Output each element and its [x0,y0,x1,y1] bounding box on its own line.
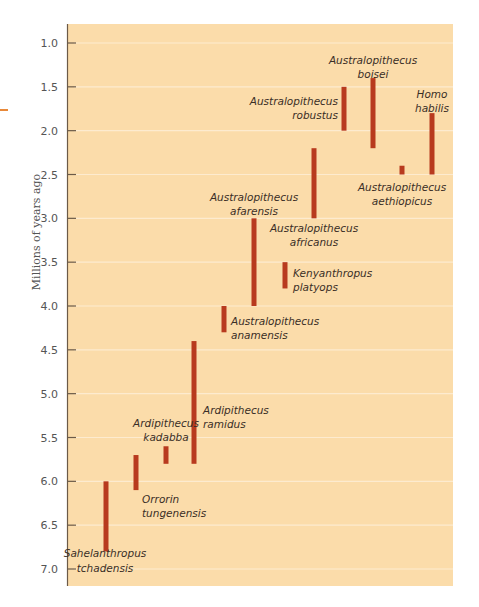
y-axis-label: Millions of years ago [30,173,43,290]
species-bar [104,481,109,551]
tick-label: 5.0 [41,388,59,401]
species-bar [312,148,317,218]
species-bar [134,455,139,490]
tick-label: 4.0 [41,300,59,313]
tick-label: 7.0 [41,563,59,576]
tick-label: 6.5 [41,519,59,532]
species-bar [164,446,169,464]
species-timeline-chart: 1.01.52.02.53.03.54.04.55.05.56.06.57.0 … [0,0,479,607]
tick-label: 1.5 [41,81,59,94]
species-bar [222,306,227,332]
tick-label: 2.0 [41,125,59,138]
tick-label: 5.5 [41,432,59,445]
species-bar [430,113,435,174]
tick-label: 3.5 [41,256,59,269]
species-bar [400,166,405,175]
tick-label: 1.0 [41,37,59,50]
species-bar [342,87,347,131]
species-bar [283,262,288,288]
tick-label: 6.0 [41,475,59,488]
tick-label: 4.5 [41,344,59,357]
species-bar [371,78,376,148]
species-bar [192,341,197,464]
plot-background [67,24,453,586]
species-bar [252,218,257,306]
tick-label: 3.0 [41,212,59,225]
tick-label: 2.5 [41,169,59,182]
